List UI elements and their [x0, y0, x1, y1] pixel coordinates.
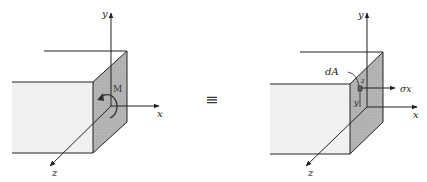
beam-bending-diagram: y x z M ≡ y x z dA y z σx — [0, 0, 427, 182]
right-front-face — [270, 84, 350, 154]
right-beam: y x z dA y z σx — [270, 9, 419, 178]
left-cross-section — [93, 51, 127, 153]
area-label: dA — [325, 66, 339, 77]
coord-y-label: y — [353, 98, 359, 107]
equivalence-symbol: ≡ — [205, 90, 218, 109]
right-x-label: x — [413, 109, 419, 120]
left-y-label: y — [101, 8, 108, 19]
coord-z-label: z — [360, 77, 365, 85]
left-beam: y x z M — [12, 8, 163, 178]
stress-label: σx — [400, 84, 411, 94]
diagram-svg: y x z M ≡ y x z dA y z σx — [0, 0, 427, 182]
left-x-label: x — [157, 108, 163, 119]
left-z-label: z — [51, 167, 58, 178]
moment-label: M — [113, 84, 122, 94]
left-front-face — [12, 82, 93, 153]
right-z-label: z — [307, 167, 314, 178]
right-y-label: y — [357, 9, 364, 20]
